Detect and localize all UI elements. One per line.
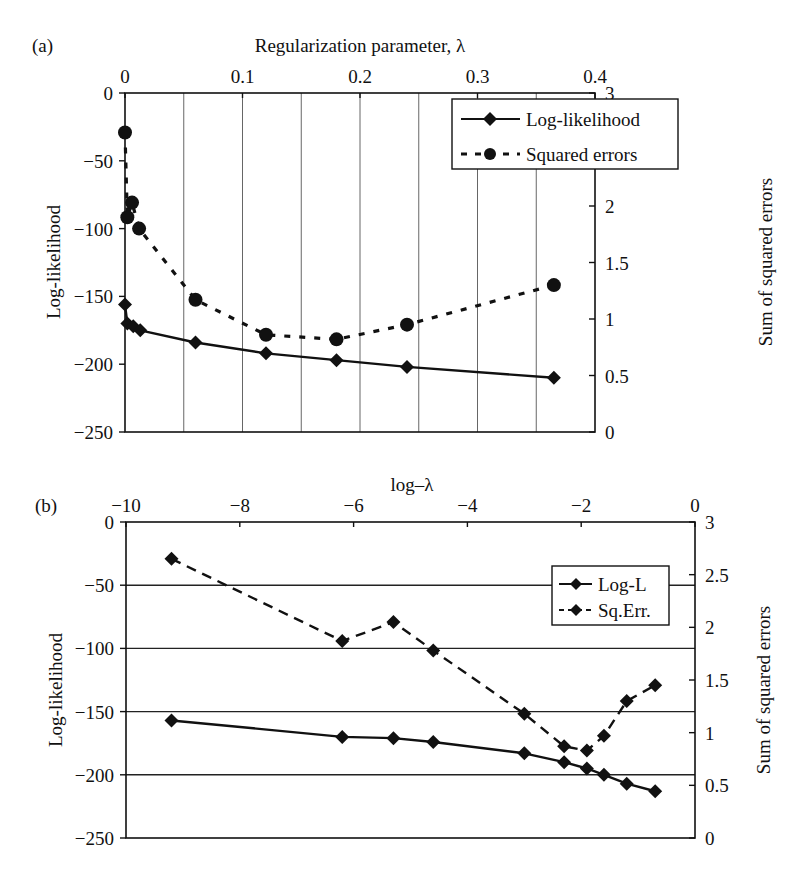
right-y-tick-label: 3 <box>705 512 715 533</box>
diamond-marker-icon <box>517 746 531 760</box>
right-y-tick-label: 0 <box>705 828 715 849</box>
y-tick-label: −250 <box>75 828 114 849</box>
x-tick-label: 0.1 <box>231 66 255 87</box>
panel-b-legend: Log-L Sq.Err. <box>552 566 669 625</box>
diamond-marker-icon <box>426 735 440 749</box>
diamond-marker-icon <box>118 298 132 312</box>
right-y-tick-label: 0.5 <box>705 775 729 796</box>
diamond-marker-icon <box>580 761 594 775</box>
y-tick-label: −50 <box>83 151 113 172</box>
right-y-tick-label: 0 <box>605 422 615 443</box>
circle-marker-icon <box>118 126 132 140</box>
panel-b-legend-log-l: Log-L <box>598 574 647 595</box>
x-tick-label: 0 <box>120 66 130 87</box>
x-tick-label: −6 <box>343 495 363 516</box>
panel-a-x-axis-title: Regularization parameter, λ <box>255 35 466 56</box>
x-tick-label: 0.2 <box>348 66 372 87</box>
y-tick-label: −200 <box>74 354 113 375</box>
right-y-tick-label: 2 <box>705 617 715 638</box>
panel-a-label: (a) <box>32 35 53 57</box>
panel-b-left-y-ticks: 0−50−100−150−200−250 <box>75 512 126 849</box>
right-y-tick-label: 2.5 <box>705 565 729 586</box>
y-tick-label: −150 <box>75 702 114 723</box>
y-tick-label: −100 <box>74 219 113 240</box>
panel-a-left-y-ticks: 0−50−100−150−200−250 <box>74 83 125 443</box>
y-tick-label: 0 <box>105 512 115 533</box>
right-y-tick-label: 1 <box>605 309 615 330</box>
y-tick-label: −100 <box>75 638 114 659</box>
circle-marker-icon <box>132 222 146 236</box>
panel-a-right-y-axis-title: Sum of squared errors <box>755 178 776 346</box>
right-y-tick-label: 0.5 <box>605 366 629 387</box>
x-tick-label: −4 <box>457 495 478 516</box>
x-tick-label: 0.3 <box>466 66 490 87</box>
panel-a-left-y-axis-title: Log-likelihood <box>43 205 64 319</box>
y-tick-label: −150 <box>74 286 113 307</box>
right-y-tick-label: 1.5 <box>705 670 729 691</box>
y-tick-label: 0 <box>104 83 114 104</box>
diamond-marker-icon <box>335 730 349 744</box>
diamond-marker-icon <box>386 615 400 629</box>
y-tick-label: −200 <box>75 765 114 786</box>
x-tick-label: 0.4 <box>583 66 607 87</box>
circle-marker-icon <box>484 148 496 160</box>
diamond-marker-icon <box>259 346 273 360</box>
panel-a-legend-log-likelihood: Log-likelihood <box>526 109 640 130</box>
series-line-log-l <box>172 720 656 791</box>
panel-b-x-axis-title: log–λ <box>391 474 435 495</box>
circle-marker-icon <box>259 328 273 342</box>
diamond-marker-icon <box>620 694 634 708</box>
right-y-tick-label: 1 <box>705 723 715 744</box>
right-y-tick-label: 2 <box>605 196 615 217</box>
circle-marker-icon <box>547 278 561 292</box>
panel-b-label: (b) <box>35 495 57 517</box>
diamond-marker-icon <box>597 768 611 782</box>
circle-marker-icon <box>400 318 414 332</box>
diamond-marker-icon <box>426 644 440 658</box>
circle-marker-icon <box>189 293 203 307</box>
diamond-marker-icon <box>547 371 561 385</box>
panel-b-right-y-axis-title: Sum of squared errors <box>753 606 774 774</box>
x-tick-label: −8 <box>230 495 250 516</box>
x-tick-label: −2 <box>571 495 591 516</box>
y-tick-label: −250 <box>74 422 113 443</box>
x-tick-label: 0 <box>690 495 700 516</box>
diamond-marker-icon <box>648 678 662 692</box>
panel-a-legend: Log-likelihood Squared errors <box>452 99 678 169</box>
chart-panel-b: (b) log–λ −10−8−6−4−20 0−50−100−150−200−… <box>35 474 774 849</box>
y-tick-label: −50 <box>84 575 114 596</box>
panel-b-left-y-axis-title: Log-likelihood <box>45 633 66 747</box>
panel-b-legend-sq-err: Sq.Err. <box>598 600 651 621</box>
diamond-marker-icon <box>386 731 400 745</box>
diamond-marker-icon <box>557 755 571 769</box>
right-y-tick-label: 1.5 <box>605 253 629 274</box>
diamond-marker-icon <box>165 552 179 566</box>
circle-marker-icon <box>120 210 134 224</box>
diamond-marker-icon <box>330 353 344 367</box>
diamond-marker-icon <box>400 360 414 374</box>
panel-a-legend-squared-errors: Squared errors <box>526 144 637 165</box>
diamond-marker-icon <box>189 336 203 350</box>
chart-panel-a: (a) Regularization parameter, λ 00.10.20… <box>32 35 776 443</box>
diamond-marker-icon <box>335 634 349 648</box>
diamond-marker-icon <box>165 713 179 727</box>
x-tick-label: −10 <box>111 495 141 516</box>
circle-marker-icon <box>125 196 139 210</box>
figure: (a) Regularization parameter, λ 00.10.20… <box>0 0 805 876</box>
diamond-marker-icon <box>620 777 634 791</box>
circle-marker-icon <box>330 332 344 346</box>
diamond-marker-icon <box>648 784 662 798</box>
